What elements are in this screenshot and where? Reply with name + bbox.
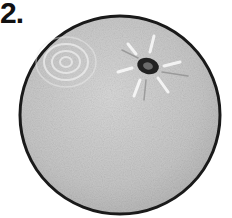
orange-illustration xyxy=(18,14,222,216)
orange-body xyxy=(20,16,220,214)
